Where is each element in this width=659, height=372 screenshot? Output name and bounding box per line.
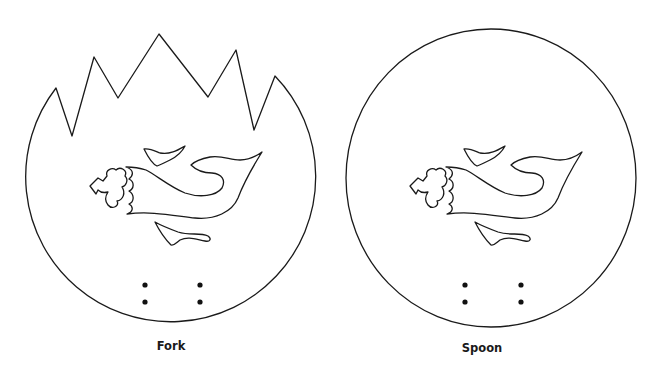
template-diagram: Fork Spoon <box>0 0 659 372</box>
spoon-outline <box>346 29 636 327</box>
fork-outline <box>26 34 316 322</box>
mounting-holes <box>142 282 202 304</box>
spoon-panel: Spoon <box>346 29 636 355</box>
fish-icon <box>90 146 262 245</box>
fish-icon <box>410 146 582 245</box>
mounting-holes <box>462 282 523 304</box>
fork-label: Fork <box>157 339 186 353</box>
fork-panel: Fork <box>26 34 316 353</box>
spoon-label: Spoon <box>462 341 503 355</box>
